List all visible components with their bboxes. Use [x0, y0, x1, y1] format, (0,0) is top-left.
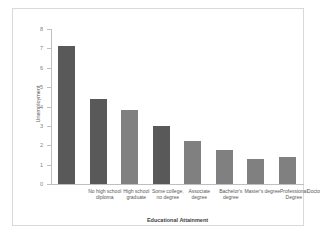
bar[interactable] [184, 141, 201, 184]
bar-slot [51, 29, 83, 184]
bar[interactable] [121, 110, 138, 184]
y-tick-label: 7 [13, 45, 43, 51]
bar[interactable] [279, 157, 296, 184]
bar-slot [146, 29, 178, 184]
y-tick-label: 2 [13, 142, 43, 148]
y-tick-label: 8 [13, 26, 43, 32]
y-tick-label: 0 [13, 181, 43, 187]
bar-slot [114, 29, 146, 184]
x-tick-label: Doctoral Degree [307, 188, 317, 194]
y-tick-label: 6 [13, 65, 43, 71]
x-axis-line [51, 184, 304, 185]
y-tick-label: 3 [13, 123, 43, 129]
bar-slot [272, 29, 304, 184]
bar[interactable] [216, 150, 233, 184]
bar-slot [177, 29, 209, 184]
bar-slot [240, 29, 272, 184]
y-tick-label: 4 [13, 104, 43, 110]
bar-slot [209, 29, 241, 184]
bar[interactable] [90, 99, 107, 184]
bar[interactable] [58, 46, 75, 184]
bar[interactable] [247, 159, 264, 184]
y-tick-label: 1 [13, 162, 43, 168]
y-tick-label: 5 [13, 84, 43, 90]
x-axis-title: Educational Attainment [51, 217, 304, 223]
bar-slot [83, 29, 115, 184]
chart-frame: Unemployment 012345678 No high school di… [12, 8, 304, 226]
bar[interactable] [153, 126, 170, 184]
y-tick-mark [47, 184, 51, 185]
plot-area [51, 29, 303, 184]
